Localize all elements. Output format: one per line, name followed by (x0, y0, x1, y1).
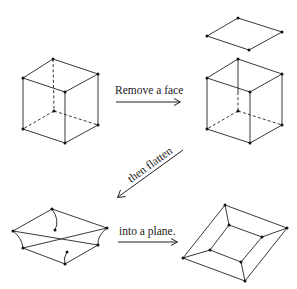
step-label-remove-face: Remove a face (115, 84, 183, 96)
planar-graph (182, 204, 289, 283)
step-label-into-plane: into a plane. (119, 225, 176, 238)
step-into-plane: into a plane. (118, 225, 178, 246)
cube-flattening-diagram: Remove a face (0, 0, 297, 289)
step-label-then-flatten: then flatten (125, 144, 174, 184)
arrow-right-icon (118, 239, 178, 246)
arrow-right-icon (116, 99, 181, 106)
vertices (12, 208, 109, 266)
step-then-flatten: then flatten (118, 144, 184, 197)
step-remove-face: Remove a face (115, 84, 183, 106)
vertices (182, 204, 289, 283)
removed-face (206, 17, 284, 52)
cube-open (206, 58, 284, 145)
cube-flattening (12, 208, 109, 266)
cube-original (22, 58, 100, 145)
